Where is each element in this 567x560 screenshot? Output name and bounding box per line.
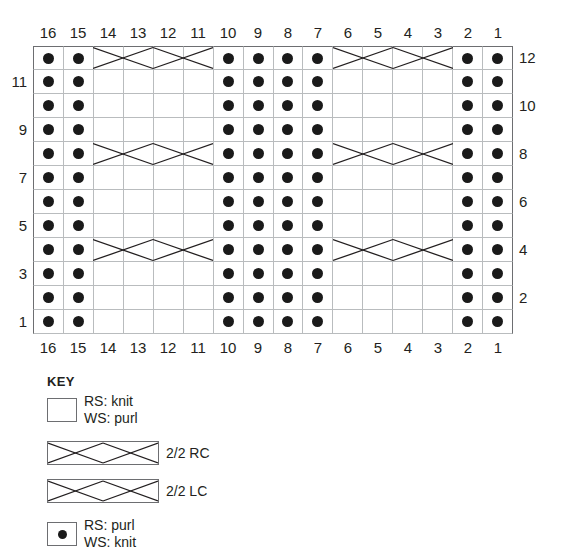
cell-purl [214,70,244,94]
chart-row [33,118,513,142]
cell-knit [124,70,154,94]
cell-purl [33,286,64,310]
cell-knit [94,70,124,94]
cell-knit [94,286,124,310]
cell-purl [244,118,274,142]
key-title: KEY [47,374,367,389]
cell-knit [363,190,393,214]
cell-knit [154,166,184,190]
cell-purl [453,238,483,262]
cell-purl [33,70,64,94]
cell-knit [333,286,363,310]
cell-knit [363,118,393,142]
cell-knit [124,214,154,238]
cell-purl [214,166,244,190]
cell-knit [363,286,393,310]
cell-purl [483,190,513,214]
cell-purl [64,286,94,310]
cell-cable [94,142,124,166]
cell-purl [33,310,64,334]
cell-purl [244,70,274,94]
cell-knit [333,310,363,334]
cell-knit [423,262,453,286]
cell-purl [64,238,94,262]
cell-cable [423,142,453,166]
cell-purl [64,94,94,118]
cell-purl [483,46,513,70]
row-label-right: 6 [519,190,559,214]
cell-cable [363,238,393,262]
cell-purl [244,286,274,310]
cell-knit [94,214,124,238]
cell-purl [453,262,483,286]
cell-knit [333,214,363,238]
row-label-left: 11 [0,70,27,94]
row-label-right: 12 [519,46,559,70]
cell-cable [393,142,423,166]
cell-purl [483,118,513,142]
cell-knit [124,262,154,286]
cell-purl [33,262,64,286]
cell-cable [94,238,124,262]
cell-purl [244,214,274,238]
cell-knit [154,262,184,286]
cell-knit [94,310,124,334]
cell-cable [333,142,363,166]
row-label-left: 5 [0,214,27,238]
cell-purl [303,238,333,262]
cell-knit [124,94,154,118]
cell-knit [154,310,184,334]
cell-cable [154,238,184,262]
cell-knit [94,262,124,286]
cell-purl [274,166,304,190]
cell-cable [184,142,214,166]
cell-purl [214,214,244,238]
cell-purl [483,166,513,190]
cell-knit [184,310,214,334]
cell-purl [64,166,94,190]
cell-purl [64,46,94,70]
cell-cable [124,46,154,70]
cell-cable [124,238,154,262]
cell-purl [274,190,304,214]
cell-knit [154,286,184,310]
column-label: 12 [153,337,183,359]
row-label-right: 4 [519,238,559,262]
cell-knit [423,286,453,310]
column-label: 12 [153,22,183,44]
column-label: 11 [183,22,213,44]
cell-knit [184,70,214,94]
key-line-1: RS: purl [84,517,136,534]
cell-cable [333,238,363,262]
cell-cable [393,46,423,70]
chart-row [33,46,513,70]
column-label: 13 [123,22,153,44]
key-line-1: 2/2 RC [166,445,210,462]
column-label: 14 [93,337,123,359]
cell-purl [244,238,274,262]
cell-knit [124,166,154,190]
cell-purl [244,166,274,190]
column-label: 16 [33,22,63,44]
cell-cable [333,46,363,70]
column-label: 15 [63,337,93,359]
cell-knit [184,262,214,286]
row-label-left: 1 [0,310,27,334]
key-entry-label: RS: knit WS: purl [84,393,138,427]
cell-cable [423,238,453,262]
cell-knit [184,118,214,142]
row-label-left: 7 [0,166,27,190]
key-entry-knit: RS: knit WS: purl [47,393,367,427]
cell-purl [453,70,483,94]
cell-knit [124,310,154,334]
key-entry-label: 2/2 RC [166,445,210,462]
cell-purl [64,262,94,286]
key-spacer [47,469,367,479]
cell-knit [363,310,393,334]
cell-knit [184,286,214,310]
column-label: 4 [393,337,423,359]
cell-purl [274,118,304,142]
cell-knit [333,118,363,142]
column-label: 2 [453,22,483,44]
cell-purl [303,142,333,166]
